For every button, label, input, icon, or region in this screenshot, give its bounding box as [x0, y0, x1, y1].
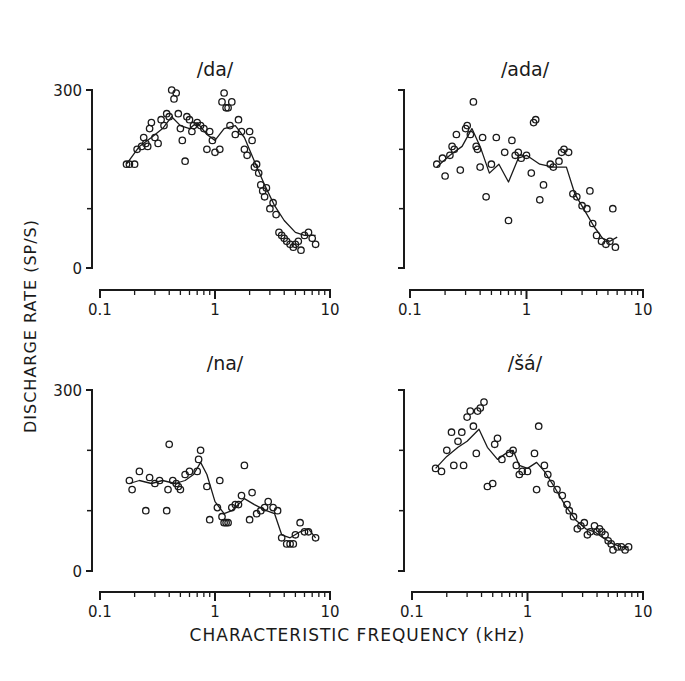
panel-4: /šá/0.1110 [398, 352, 653, 621]
data-point [479, 134, 485, 140]
data-point [451, 462, 457, 468]
x-tick-label: 1 [523, 603, 533, 621]
panel-1: /da/30000.1110 [53, 58, 339, 319]
data-point [470, 423, 476, 429]
y-tick-label: 300 [53, 82, 82, 100]
data-point [438, 468, 444, 474]
data-point [227, 122, 233, 128]
data-point [155, 140, 161, 146]
panel-title: /da/ [197, 58, 234, 80]
data-point [195, 456, 201, 462]
data-point [481, 399, 487, 405]
smoothed-curve [129, 462, 315, 537]
data-point [470, 99, 476, 105]
panel-title: /ada/ [501, 58, 550, 80]
data-point [267, 206, 273, 212]
data-point [587, 188, 593, 194]
data-point [207, 517, 213, 523]
x-axis-label: CHARACTERISTIC FREQUENCY (kHz) [0, 625, 685, 645]
data-point [146, 474, 152, 480]
data-point [610, 206, 616, 212]
data-point [467, 408, 473, 414]
data-point [464, 414, 470, 420]
data-point [261, 194, 267, 200]
data-point [129, 486, 135, 492]
panel-3: /na/30000.1110 [53, 352, 339, 621]
figure-canvas: /da/30000.1110/ada/0.1110/na/30000.1110/… [0, 0, 685, 681]
data-point [488, 161, 494, 167]
data-point [244, 152, 250, 158]
data-point [442, 173, 448, 179]
data-point [459, 429, 465, 435]
data-point [177, 125, 183, 131]
y-tick-label: 0 [72, 563, 82, 581]
data-point [273, 211, 279, 217]
y-axis-label-text: DISCHARGE RATE (SP/S) [21, 219, 40, 433]
data-point [143, 508, 149, 514]
data-point [246, 128, 252, 134]
panel-title: /šá/ [508, 352, 543, 374]
data-point [444, 447, 450, 453]
panel-2: /ada/0.1110 [398, 58, 653, 319]
data-point [593, 232, 599, 238]
y-tick-label: 300 [53, 382, 82, 400]
x-tick-label: 0.1 [88, 603, 112, 621]
data-point [528, 170, 534, 176]
data-point [246, 517, 252, 523]
x-tick-label: 1 [522, 301, 532, 319]
x-tick-label: 1 [210, 603, 220, 621]
data-point [505, 217, 511, 223]
y-axis-line [398, 90, 404, 268]
data-point [448, 429, 454, 435]
y-axis-label: DISCHARGE RATE (SP/S) [10, 0, 50, 681]
data-point [164, 508, 170, 514]
data-point [204, 483, 210, 489]
data-point [584, 206, 590, 212]
panel-title: /na/ [207, 352, 244, 374]
data-point [439, 155, 445, 161]
x-tick-label: 10 [633, 603, 652, 621]
data-point [249, 137, 255, 143]
data-point [298, 247, 304, 253]
data-point [453, 131, 459, 137]
data-point [537, 197, 543, 203]
data-point [533, 486, 539, 492]
data-point [204, 146, 210, 152]
x-tick-label: 0.1 [398, 301, 422, 319]
data-point [309, 235, 315, 241]
data-point [241, 462, 247, 468]
data-point [219, 99, 225, 105]
x-tick-label: 0.1 [88, 301, 112, 319]
data-point [235, 117, 241, 123]
data-point [556, 158, 562, 164]
data-point [182, 158, 188, 164]
y-tick-label: 0 [72, 260, 82, 278]
data-point [457, 167, 463, 173]
x-tick-label: 10 [320, 603, 339, 621]
data-point [229, 99, 235, 105]
data-point [490, 480, 496, 486]
data-point [541, 462, 547, 468]
x-tick-label: 10 [633, 301, 652, 319]
data-point [455, 438, 461, 444]
y-axis-line [398, 390, 404, 571]
data-point [136, 468, 142, 474]
data-point [249, 489, 255, 495]
data-point [165, 486, 171, 492]
y-axis-line [86, 390, 92, 571]
data-point [166, 441, 172, 447]
data-point [179, 137, 185, 143]
data-point [197, 447, 203, 453]
data-point [509, 137, 515, 143]
data-point [312, 241, 318, 247]
data-point [279, 535, 285, 541]
data-point [483, 194, 489, 200]
data-point [217, 477, 223, 483]
x-tick-label: 0.1 [400, 603, 424, 621]
data-point [536, 423, 542, 429]
data-point [232, 131, 238, 137]
y-axis-line [86, 90, 92, 268]
x-tick-label: 10 [320, 301, 339, 319]
data-point [494, 435, 500, 441]
data-point [499, 456, 505, 462]
